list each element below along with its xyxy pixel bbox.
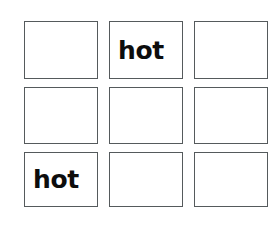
grid-cell-r2c2[interactable] — [109, 87, 183, 144]
grid-cell-label: hot — [25, 167, 79, 192]
grid-cell-r2c3[interactable] — [194, 87, 268, 144]
grid-cell-r2c1[interactable] — [24, 87, 98, 144]
grid-cell-r3c1[interactable]: hot — [24, 152, 98, 207]
grid-cell-r1c1[interactable] — [24, 21, 98, 79]
grid-cell-r1c3[interactable] — [194, 21, 268, 79]
word-grid: hot hot — [24, 21, 267, 205]
grid-cell-r3c3[interactable] — [194, 152, 268, 207]
grid-cell-r1c2[interactable]: hot — [109, 21, 183, 79]
grid-cell-r3c2[interactable] — [109, 152, 183, 207]
grid-cell-label: hot — [110, 38, 164, 63]
